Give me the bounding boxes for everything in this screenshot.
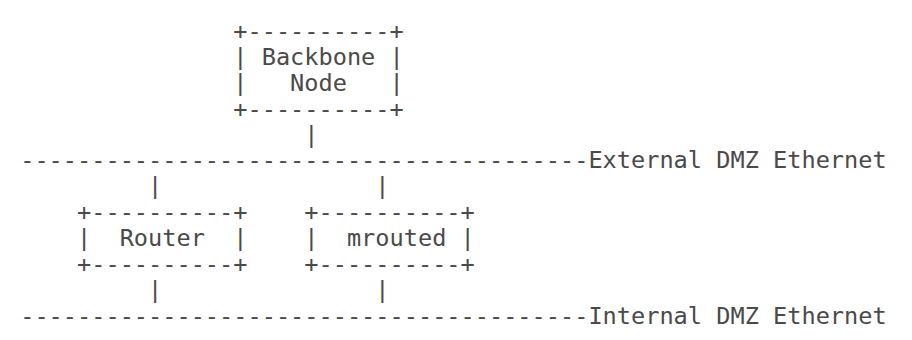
- internal-dmz-ethernet-segment: ----------------------------------------…: [6, 304, 887, 330]
- external-dmz-ethernet-segment: ----------------------------------------…: [6, 148, 887, 174]
- backbone-node-label-line-2: | Node |: [6, 71, 887, 97]
- router-mrouted-box-top: +----------+ +----------+: [6, 200, 887, 226]
- router-mrouted-labels: | Router | | mrouted |: [6, 226, 887, 252]
- ascii-network-diagram: +----------+ | Backbone | | Node | +----…: [6, 19, 887, 330]
- backbone-node-label-line-1: | Backbone |: [6, 45, 887, 71]
- backbone-node-box-top: +----------+: [6, 19, 887, 45]
- backbone-to-external-link: |: [6, 123, 887, 149]
- external-to-hosts-links: | |: [6, 174, 887, 200]
- hosts-to-internal-links: | |: [6, 278, 887, 304]
- router-mrouted-box-bottom: +----------+ +----------+: [6, 252, 887, 278]
- backbone-node-box-bottom: +----------+: [6, 97, 887, 123]
